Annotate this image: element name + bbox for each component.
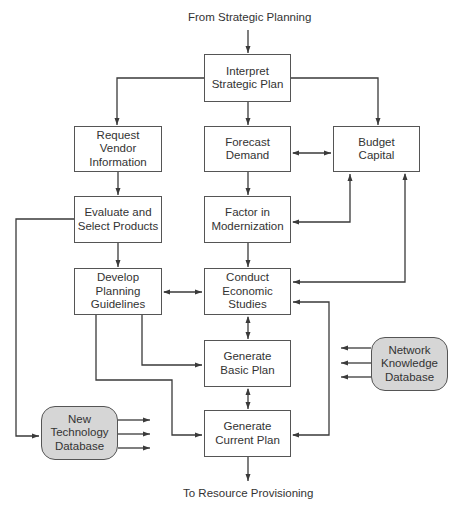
node-request-vendor-information[interactable]: Request Vendor Information (74, 126, 162, 172)
output-label: To Resource Provisioning (183, 487, 313, 499)
node-develop-planning-guidelines[interactable]: Develop Planning Guidelines (74, 268, 162, 315)
node-conduct-economic-studies[interactable]: Conduct Economic Studies (204, 268, 291, 315)
node-new-technology-database[interactable]: New Technology Database (41, 406, 118, 460)
node-interpret-strategic-plan[interactable]: Interpret Strategic Plan (204, 54, 291, 102)
node-budget-capital[interactable]: Budget Capital (333, 126, 420, 172)
node-generate-current-plan[interactable]: Generate Current Plan (204, 410, 291, 457)
input-label: From Strategic Planning (188, 11, 308, 23)
node-evaluate-select-products[interactable]: Evaluate and Select Products (74, 196, 162, 243)
node-generate-basic-plan[interactable]: Generate Basic Plan (204, 340, 291, 387)
node-forecast-demand[interactable]: Forecast Demand (204, 126, 291, 172)
node-factor-in-modernization[interactable]: Factor in Modernization (204, 196, 291, 243)
node-network-knowledge-database[interactable]: Network Knowledge Database (371, 337, 448, 391)
